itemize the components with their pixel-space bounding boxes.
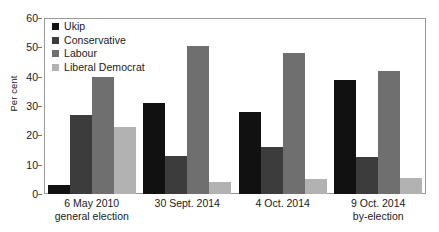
legend-swatch-icon [52, 37, 59, 44]
y-tick-label: 60 [16, 13, 38, 23]
bar [261, 147, 283, 194]
x-axis-label-line2: general election [44, 210, 140, 223]
y-tick-label: 20 [16, 130, 38, 140]
bar-group [143, 18, 231, 194]
x-axis-label: 4 Oct. 2014 [235, 197, 331, 210]
x-axis-label-line1: 9 Oct. 2014 [351, 197, 405, 209]
bar [92, 77, 114, 194]
bar [187, 46, 209, 194]
legend: UkipConservativeLabourLiberal Democrat [52, 20, 145, 74]
bar [114, 127, 136, 194]
bar [400, 178, 422, 194]
y-tick-mark [38, 194, 42, 195]
bar [70, 115, 92, 194]
bar [165, 156, 187, 194]
legend-item: Liberal Democrat [52, 61, 145, 74]
y-tick-mark [38, 77, 42, 78]
bar [143, 103, 165, 194]
legend-item: Conservative [52, 34, 145, 47]
y-tick-mark [38, 18, 42, 19]
legend-label: Liberal Democrat [64, 62, 145, 73]
legend-label: Conservative [64, 35, 126, 46]
y-axis-ticks: 6050403020100 [12, 0, 38, 232]
bar [48, 185, 70, 194]
y-tick-mark [38, 106, 42, 107]
legend-swatch-icon [52, 64, 59, 71]
bar [378, 71, 400, 194]
legend-label: Labour [64, 48, 97, 59]
y-tick-label: 10 [16, 160, 38, 170]
bar-chart: Per cent 6050403020100 UkipConservativeL… [0, 0, 439, 232]
bar [209, 182, 231, 194]
y-tick-label: 0 [16, 189, 38, 199]
x-axis-label: 9 Oct. 2014by-election [331, 197, 427, 223]
y-tick-mark [38, 165, 42, 166]
bar [305, 179, 327, 194]
legend-label: Ukip [64, 21, 85, 32]
x-axis-label-line1: 6 May 2010 [64, 197, 119, 209]
y-tick-mark [38, 135, 42, 136]
legend-swatch-icon [52, 23, 59, 30]
bar [356, 157, 378, 194]
x-axis-label-line1: 4 Oct. 2014 [256, 197, 310, 209]
bar-group [239, 18, 327, 194]
legend-item: Ukip [52, 20, 145, 33]
legend-swatch-icon [52, 50, 59, 57]
y-tick-label: 30 [16, 101, 38, 111]
x-axis-label-line2: by-election [331, 210, 427, 223]
y-tick-mark [38, 47, 42, 48]
bar [334, 80, 356, 194]
legend-item: Labour [52, 47, 145, 60]
bar-group [334, 18, 422, 194]
bar [283, 53, 305, 194]
bar [239, 112, 261, 194]
y-tick-label: 40 [16, 72, 38, 82]
x-axis-label: 6 May 2010general election [44, 197, 140, 223]
x-axis-labels: 6 May 2010general election30 Sept. 20144… [44, 197, 426, 232]
x-axis-label-line1: 30 Sept. 2014 [155, 197, 220, 209]
y-tick-label: 50 [16, 42, 38, 52]
x-axis-label: 30 Sept. 2014 [140, 197, 236, 210]
